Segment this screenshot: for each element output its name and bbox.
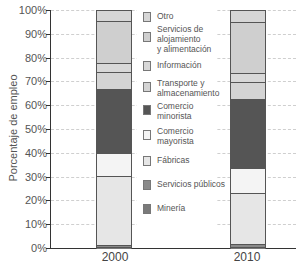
legend-swatch — [143, 204, 151, 214]
bar-segment — [97, 153, 131, 176]
y-axis-label: Porcentaje de empleo — [7, 73, 19, 183]
x-label-2010: 2010 — [222, 250, 272, 262]
legend-swatch — [143, 61, 151, 71]
legend-swatch — [143, 82, 151, 92]
legend-label: Servicios de alojamiento y alimentación — [157, 24, 211, 54]
y-tick-label: 0% — [31, 242, 47, 254]
legend-label: Comercio minorista — [157, 101, 193, 121]
bar-segment — [231, 22, 265, 73]
y-tick-label: 30% — [25, 171, 47, 183]
y-tick-label: 70% — [25, 75, 47, 87]
legend-label: Servicios públicos — [157, 179, 225, 189]
bar-2010 — [230, 10, 266, 249]
bar-segment — [97, 11, 131, 21]
bar-segment — [97, 63, 131, 72]
legend-swatch — [143, 156, 151, 166]
y-tick-label: 80% — [25, 52, 47, 64]
legend-swatch — [143, 12, 151, 22]
bar-segment — [97, 21, 131, 63]
legend-label: Comercio mayorista — [157, 126, 194, 146]
y-tick-label: 50% — [25, 123, 47, 135]
legend-label: Información — [157, 60, 201, 70]
bar-segment — [231, 99, 265, 168]
bar-segment — [97, 72, 131, 89]
bar-segment — [97, 176, 131, 245]
bar-segment — [97, 89, 131, 153]
y-tick-label: 10% — [25, 218, 47, 230]
legend-label: Minería — [157, 203, 185, 213]
bar-segment — [97, 245, 131, 247]
bar-segment — [231, 168, 265, 193]
legend-swatch — [143, 105, 151, 115]
bar-segment — [231, 82, 265, 99]
legend-swatch — [143, 180, 151, 190]
legend-label: Otro — [157, 11, 174, 21]
bar-segment — [231, 244, 265, 247]
bar-2000 — [96, 10, 132, 249]
y-tick-label: 100% — [19, 4, 47, 16]
legend-swatch — [143, 32, 151, 42]
legend-swatch — [143, 130, 151, 140]
bar-segment — [97, 247, 131, 249]
y-tick-label: 90% — [25, 28, 47, 40]
bar-segment — [231, 247, 265, 249]
legend-label: Fábricas — [157, 155, 190, 165]
y-tick-label: 40% — [25, 147, 47, 159]
y-tick-label: 20% — [25, 194, 47, 206]
legend: OtroServicios de alojamiento y alimentac… — [137, 5, 217, 225]
y-axis-line — [50, 10, 51, 249]
bar-segment — [231, 73, 265, 82]
x-label-2000: 2000 — [90, 250, 140, 262]
y-tick-label: 60% — [25, 99, 47, 111]
bar-segment — [231, 11, 265, 22]
bar-segment — [231, 193, 265, 244]
legend-label: Transporte y almacenamiento — [157, 78, 219, 98]
